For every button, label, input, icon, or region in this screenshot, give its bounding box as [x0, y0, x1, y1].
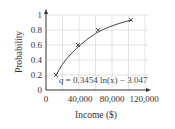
- x-tick: 40,000: [68, 94, 93, 104]
- y-tick-labels: 0 0.2 0.4 0.6 0.8 1: [31, 10, 43, 95]
- y-tick: 1: [38, 10, 43, 20]
- x-tick: 80,000: [100, 94, 125, 104]
- y-tick: 0.2: [31, 70, 42, 80]
- y-axis-title: Probability: [14, 31, 24, 73]
- y-tick: 0: [38, 85, 43, 95]
- chart: 0 0.2 0.4 0.6 0.8 1 0 40,000 80,000 120,…: [0, 0, 175, 129]
- x-axis-arrow-icon: [146, 88, 151, 92]
- x-tick-labels: 0 40,000 80,000 120,000: [44, 94, 159, 104]
- fit-curve: [56, 20, 132, 75]
- x-tick: 120,000: [129, 94, 159, 104]
- y-tick: 0.6: [31, 40, 43, 50]
- data-markers: [54, 18, 133, 77]
- equation-body: = 0.3454 ln(x) − 3.047: [64, 75, 148, 85]
- y-tick: 0.8: [31, 25, 43, 35]
- equation-annotation: q = 0.3454 ln(x) − 3.047: [59, 75, 148, 85]
- x-axis-title: Income ($): [75, 110, 117, 121]
- y-tick: 0.4: [31, 55, 43, 65]
- x-tick: 0: [44, 94, 49, 104]
- y-axis-arrow-icon: [44, 9, 48, 14]
